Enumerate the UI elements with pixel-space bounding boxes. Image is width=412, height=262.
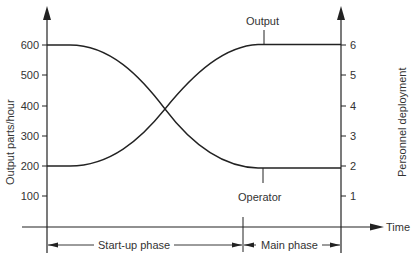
operator-annotation: Operator bbox=[238, 168, 282, 203]
chart: 600500400300200100 654321 Time Output pa… bbox=[0, 0, 412, 262]
output-annotation: Output bbox=[246, 15, 279, 44]
right-tick-label: 5 bbox=[350, 69, 356, 81]
output-label: Output bbox=[246, 15, 279, 27]
right-tick-label: 1 bbox=[350, 190, 356, 202]
startup-phase-label: Start-up phase bbox=[98, 239, 170, 251]
startup-left-arrow-icon bbox=[48, 243, 58, 248]
left-axis-title: Output parts/hour bbox=[4, 99, 16, 185]
operator-label: Operator bbox=[238, 191, 282, 203]
left-tick-label: 400 bbox=[21, 100, 39, 112]
main-phase-span: Main phase bbox=[244, 239, 340, 251]
right-tick-label: 2 bbox=[350, 160, 356, 172]
right-tick-group: 654321 bbox=[341, 39, 356, 202]
main-phase-label: Main phase bbox=[261, 239, 318, 251]
startup-right-arrow-icon bbox=[232, 243, 242, 248]
left-tick-label: 100 bbox=[21, 190, 39, 202]
left-tick-label: 200 bbox=[21, 160, 39, 172]
left-tick-group: 600500400300200100 bbox=[21, 39, 47, 202]
left-y-axis: 600500400300200100 bbox=[21, 6, 51, 253]
right-tick-label: 3 bbox=[350, 130, 356, 142]
right-axis-title: Personnel deployment bbox=[396, 68, 408, 177]
main-left-arrow-icon bbox=[244, 243, 254, 248]
main-right-arrow-icon bbox=[330, 243, 340, 248]
right-y-axis: 654321 bbox=[337, 6, 356, 253]
right-tick-label: 4 bbox=[350, 100, 356, 112]
time-axis: Time bbox=[22, 221, 410, 233]
left-axis-arrow-icon bbox=[43, 6, 51, 20]
output-curve bbox=[47, 45, 341, 167]
time-axis-title: Time bbox=[386, 221, 410, 233]
right-axis-arrow-icon bbox=[337, 6, 345, 20]
right-tick-label: 6 bbox=[350, 39, 356, 51]
operator-curve bbox=[47, 45, 341, 168]
time-axis-arrow-icon bbox=[370, 224, 384, 231]
left-tick-label: 500 bbox=[21, 69, 39, 81]
left-tick-label: 600 bbox=[21, 39, 39, 51]
startup-phase-span: Start-up phase bbox=[48, 239, 242, 251]
left-tick-label: 300 bbox=[21, 130, 39, 142]
